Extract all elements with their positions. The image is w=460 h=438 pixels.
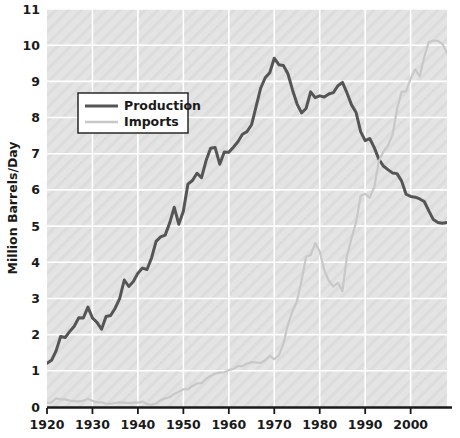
y-tick-label: 1 — [31, 363, 40, 378]
x-tick-label: 1920 — [30, 417, 65, 432]
y-tick-label: 6 — [31, 182, 40, 197]
y-tick-label: 8 — [31, 110, 40, 125]
x-tick-label: 1930 — [75, 417, 110, 432]
y-tick-label: 3 — [31, 291, 40, 306]
x-tick-label: 1970 — [257, 417, 292, 432]
y-tick-label: 7 — [31, 146, 40, 161]
x-tick-labels: 192019301940195019601970198019902000 — [30, 417, 429, 432]
y-tick-label: 11 — [23, 2, 40, 17]
chart-figure: 01234567891011 1920193019401950196019701… — [0, 0, 460, 438]
y-tick-label: 10 — [23, 38, 41, 53]
chart-legend[interactable]: Production Imports — [78, 93, 201, 133]
x-tick-label: 1940 — [121, 417, 156, 432]
y-tick-labels: 01234567891011 — [23, 2, 41, 415]
y-tick-label: 4 — [31, 255, 40, 270]
legend-label-production: Production — [124, 98, 201, 113]
x-tick-marks — [47, 408, 411, 414]
x-tick-label: 1980 — [302, 417, 337, 432]
x-tick-label: 1950 — [166, 417, 201, 432]
y-tick-label: 9 — [31, 74, 40, 89]
plot-background — [47, 9, 447, 407]
y-tick-label: 5 — [31, 219, 40, 234]
y-tick-label: 2 — [31, 327, 40, 342]
legend-label-imports: Imports — [124, 114, 179, 129]
chart-svg: 01234567891011 1920193019401950196019701… — [0, 0, 460, 438]
y-tick-label: 0 — [31, 400, 40, 415]
x-tick-label: 1990 — [348, 417, 383, 432]
x-tick-label: 2000 — [393, 417, 428, 432]
y-axis-title: Million Barrels/Day — [5, 141, 20, 274]
x-tick-label: 1960 — [211, 417, 246, 432]
